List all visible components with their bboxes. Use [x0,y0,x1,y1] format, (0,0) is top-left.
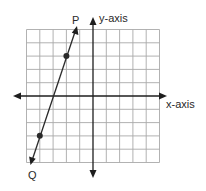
point-upper [63,53,69,59]
x-axis [13,93,167,100]
line-p-arrow-icon [72,26,79,35]
line-q-arrow-icon [29,157,36,166]
y-axis-label: y-axis [99,12,128,24]
label-p: P [72,14,79,26]
label-q: Q [28,169,37,181]
y-axis [90,17,97,178]
x-axis-label: x-axis [166,98,195,110]
y-axis-down-arrow-icon [90,170,97,178]
point-lower [37,133,43,139]
x-axis-left-arrow-icon [13,93,21,100]
coordinate-grid-diagram: y-axis x-axis P Q [0,0,206,191]
y-axis-up-arrow-icon [90,17,97,25]
